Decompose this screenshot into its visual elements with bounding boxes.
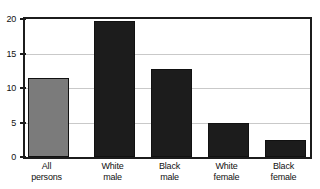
gridline-15 bbox=[25, 54, 310, 55]
y-tick-15 bbox=[20, 53, 26, 55]
y-tick-label-20: 20 bbox=[6, 14, 16, 24]
x-axis-label-all-persons: Allpersons bbox=[12, 161, 81, 183]
y-tick-label-5: 5 bbox=[11, 118, 16, 128]
bar-white-male bbox=[94, 21, 135, 157]
x-axis-label-line: female bbox=[249, 172, 318, 183]
plot-area: 05101520 bbox=[23, 17, 312, 159]
y-tick-20 bbox=[20, 18, 26, 20]
bar-white-female bbox=[208, 123, 249, 158]
y-tick-10 bbox=[20, 87, 26, 89]
x-axis-label-black-female: Blackfemale bbox=[249, 161, 318, 183]
x-axis-label-line: Black bbox=[249, 161, 318, 172]
bar-chart: 05101520 AllpersonsWhitemaleBlackmaleWhi… bbox=[0, 0, 320, 189]
x-axis-labels: AllpersonsWhitemaleBlackmaleWhitefemaleB… bbox=[23, 161, 312, 189]
bar-black-male bbox=[151, 69, 192, 157]
y-tick-0 bbox=[20, 156, 26, 158]
bar-black-female bbox=[265, 140, 306, 157]
y-tick-label-15: 15 bbox=[6, 49, 16, 59]
bar-all-persons bbox=[28, 78, 69, 157]
y-tick-label-10: 10 bbox=[6, 83, 16, 93]
y-tick-5 bbox=[20, 122, 26, 124]
x-axis-label-line: All bbox=[12, 161, 81, 172]
x-axis-label-line: persons bbox=[12, 172, 81, 183]
